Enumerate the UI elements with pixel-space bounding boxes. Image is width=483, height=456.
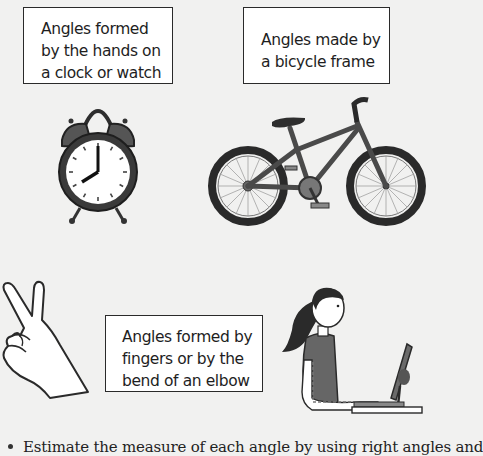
alarm-clock-icon	[50, 92, 150, 232]
caption-line: Angles formed	[41, 18, 172, 40]
instruction-bullet: Estimate the measure of each angle by us…	[8, 438, 483, 456]
caption-line: a bicycle frame	[261, 51, 389, 73]
caption-clock-angles: Angles formed by the hands on a clock or…	[23, 7, 173, 84]
bullet-icon	[8, 444, 13, 449]
person-typing-at-computer-icon	[280, 265, 433, 415]
caption-line: fingers or by the	[122, 348, 262, 370]
caption-line: Angles made by	[261, 29, 389, 51]
caption-body-angles: Angles formed by fingers or by the bend …	[105, 315, 263, 392]
caption-line: bend of an elbow	[122, 370, 262, 392]
caption-line: by the hands on	[41, 40, 172, 62]
caption-line: a clock or watch	[41, 62, 172, 84]
instruction-text: Estimate the measure of each angle by us…	[23, 438, 483, 456]
caption-bicycle-angles: Angles made by a bicycle frame	[243, 7, 390, 84]
caption-line: Angles formed by	[122, 326, 262, 348]
bicycle-icon	[205, 95, 433, 245]
peace-sign-hand-icon	[0, 265, 100, 400]
